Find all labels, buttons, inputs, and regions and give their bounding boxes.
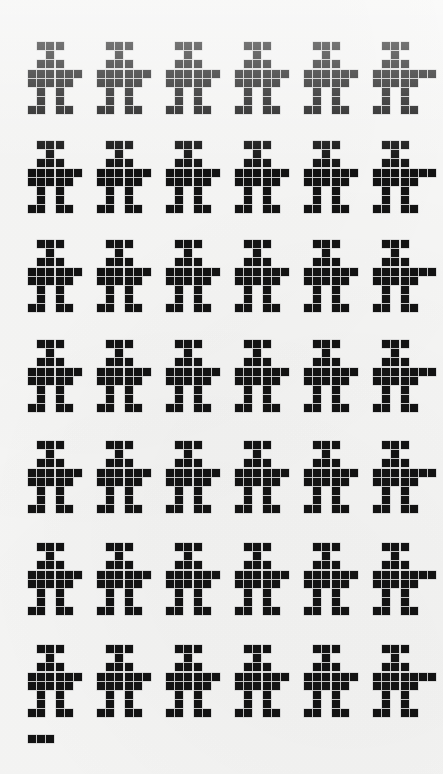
figure-pixel — [410, 682, 418, 690]
figure-pixel — [401, 496, 409, 504]
figure-pixel — [391, 441, 399, 449]
figure-pixel — [332, 663, 340, 671]
figure-pixel — [37, 395, 45, 403]
figure-pixel — [166, 682, 174, 690]
figure-pixel — [410, 304, 418, 312]
figure-pixel — [382, 268, 390, 276]
figure-pixel — [373, 607, 381, 615]
figure-pixel — [194, 691, 202, 699]
figure-pixel — [263, 691, 271, 699]
figure-pixel — [37, 598, 45, 606]
figure-pixel — [253, 349, 261, 357]
figure-pixel — [125, 543, 133, 551]
figure-pixel — [253, 543, 261, 551]
figure-pixel — [56, 268, 64, 276]
figure-pixel — [65, 607, 73, 615]
figure-pixel — [382, 141, 390, 149]
figure-pixel — [106, 607, 114, 615]
figure-pixel — [253, 654, 261, 662]
figure-pixel — [74, 368, 82, 376]
figure-pixel — [212, 571, 220, 579]
figure-pixel — [401, 395, 409, 403]
figure-pixel — [253, 561, 261, 569]
person-figure — [166, 543, 230, 626]
figure-pixel — [382, 478, 390, 486]
figure-pixel — [166, 571, 174, 579]
figure-pixel — [106, 598, 114, 606]
figure-pixel — [56, 258, 64, 266]
figure-pixel — [253, 268, 261, 276]
figure-pixel — [56, 561, 64, 569]
figure-pixel — [194, 159, 202, 167]
figure-pixel — [332, 88, 340, 96]
figure-pixel — [401, 60, 409, 68]
figure-pixel — [373, 169, 381, 177]
figure-pixel — [106, 304, 114, 312]
figure-pixel — [125, 598, 133, 606]
figure-pixel — [28, 205, 36, 213]
figure-pixel — [391, 340, 399, 348]
figure-pixel — [253, 70, 261, 78]
figure-pixel — [106, 106, 114, 114]
figure-pixel — [28, 79, 36, 87]
figure-pixel — [281, 268, 289, 276]
figure-pixel — [304, 404, 312, 412]
figure-pixel — [322, 169, 330, 177]
figure-pixel — [401, 441, 409, 449]
figure-pixel — [56, 404, 64, 412]
figure-pixel — [115, 42, 123, 50]
figure-pixel — [166, 505, 174, 513]
figure-pixel — [373, 571, 381, 579]
figure-pixel — [244, 187, 252, 195]
figure-pixel — [37, 469, 45, 477]
figure-pixel — [56, 205, 64, 213]
figure-pixel — [97, 205, 105, 213]
figure-pixel — [184, 552, 192, 560]
figure-pixel — [382, 459, 390, 467]
figure-pixel — [253, 450, 261, 458]
figure-pixel — [97, 673, 105, 681]
figure-pixel — [401, 159, 409, 167]
figure-pixel — [134, 169, 142, 177]
figure-pixel — [115, 340, 123, 348]
figure-pixel — [115, 459, 123, 467]
figure-pixel — [244, 258, 252, 266]
figure-pixel — [125, 691, 133, 699]
figure-pixel — [184, 349, 192, 357]
figure-pixel — [115, 645, 123, 653]
figure-pixel — [125, 673, 133, 681]
figure-pixel — [56, 700, 64, 708]
figure-pixel — [106, 196, 114, 204]
figure-pixel — [212, 368, 220, 376]
figure-pixel — [203, 505, 211, 513]
figure-pixel — [313, 205, 321, 213]
figure-pixel — [184, 543, 192, 551]
figure-pixel — [28, 277, 36, 285]
person-figure — [166, 42, 230, 125]
figure-pixel — [46, 340, 54, 348]
figure-pixel — [175, 304, 183, 312]
figure-pixel — [382, 700, 390, 708]
figure-pixel — [106, 478, 114, 486]
figure-pixel — [184, 673, 192, 681]
figure-pixel — [106, 709, 114, 717]
figure-pixel — [65, 709, 73, 717]
figure-pixel — [56, 187, 64, 195]
figure-pixel — [263, 700, 271, 708]
figure-pixel — [56, 645, 64, 653]
figure-pixel — [134, 304, 142, 312]
figure-pixel — [37, 106, 45, 114]
figure-pixel — [373, 70, 381, 78]
figure-pixel — [263, 673, 271, 681]
figure-pixel — [194, 598, 202, 606]
figure-pixel — [134, 607, 142, 615]
figure-pixel — [341, 70, 349, 78]
figure-pixel — [115, 654, 123, 662]
figure-pixel — [373, 106, 381, 114]
figure-pixel — [281, 368, 289, 376]
figure-pixel — [263, 377, 271, 385]
figure-pixel — [175, 187, 183, 195]
figure-pixel — [391, 150, 399, 158]
figure-pixel — [28, 478, 36, 486]
person-figure — [97, 141, 161, 224]
